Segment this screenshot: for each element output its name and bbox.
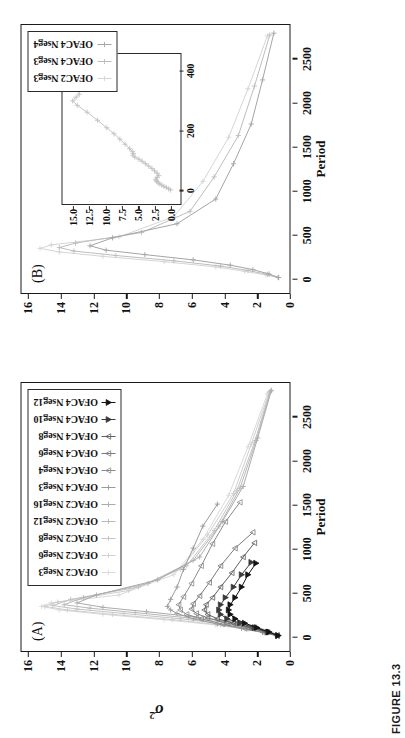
legend-item[interactable]: OFAC2 Nseg3 xyxy=(38,564,117,581)
panel-a-plot-frame: (A) OFAC2 Nseg3OFAC2 Nseg6OFAC2 Nseg8OFA… xyxy=(20,382,290,652)
y-tick-label: 8 xyxy=(152,660,167,666)
y-tick-mark xyxy=(93,652,94,657)
inset-y-tick-label: 15.0 xyxy=(68,209,78,226)
y-tick-mark xyxy=(126,652,127,657)
y-tick-mark xyxy=(257,652,258,657)
panel-a-x-axis: 05001000150020002500 xyxy=(292,376,314,696)
x-tick-mark xyxy=(292,549,297,550)
y-tick-label: 4 xyxy=(217,302,232,308)
legend-swatch-triangle-filled xyxy=(100,412,116,427)
figure-rotated-canvas: (A) OFAC2 Nseg3OFAC2 Nseg6OFAC2 Nseg8OFA… xyxy=(0,0,405,738)
inset-y-tick-mark xyxy=(121,206,122,210)
legend-swatch-triangle xyxy=(100,463,116,478)
y-tick-label: 10 xyxy=(119,660,134,672)
inset-y-tick-label: 7.5 xyxy=(117,209,127,221)
inset-x-tick-mark xyxy=(179,130,183,131)
legend-item-label: OFAC2 Nseg12 xyxy=(33,516,97,527)
y-tick-label: 16 xyxy=(21,660,36,672)
y-tick-label: 6 xyxy=(184,660,199,666)
panel-b-x-axis-title: Period xyxy=(312,24,328,294)
x-tick-mark xyxy=(292,58,297,59)
panel-a-chart: (A) OFAC2 Nseg3OFAC2 Nseg6OFAC2 Nseg8OFA… xyxy=(16,376,356,696)
inset-y-tick-mark xyxy=(154,206,155,210)
legend-swatch-plus xyxy=(100,497,116,512)
legend-item[interactable]: OFAC2 Nseg6 xyxy=(38,547,117,564)
inset-y-tick-mark xyxy=(138,206,139,210)
y-tick-mark xyxy=(158,294,159,299)
legend-item-label: OFAC4 Nseg3 xyxy=(38,482,98,493)
legend-swatch-plus xyxy=(100,480,116,495)
legend-item[interactable]: OFAC4 Nseg8 xyxy=(38,428,117,445)
x-tick-mark xyxy=(292,460,297,461)
y-tick-mark xyxy=(126,294,127,299)
legend-item[interactable]: OFAC4 Nseg4 xyxy=(38,462,117,479)
panel-b-x-axis: 05001000150020002500 xyxy=(292,18,314,338)
panel-a-x-axis-title: Period xyxy=(312,382,328,652)
legend-item[interactable]: OFAC4 Nseg4 xyxy=(33,36,112,53)
x-tick-mark xyxy=(292,416,297,417)
y-tick-label: 2 xyxy=(250,660,265,666)
legend-swatch-plus xyxy=(96,37,112,52)
panel-b-legend: OFAC2 Nseg3OFAC4 Nseg3OFAC4 Nseg4 xyxy=(27,31,117,92)
x-tick-mark xyxy=(292,504,297,505)
x-tick-mark xyxy=(292,637,297,638)
inset-y-tick-label: 5.0 xyxy=(133,209,143,221)
legend-item-label: OFAC4 Nseg12 xyxy=(33,397,97,408)
legend-item-label: OFAC2 Nseg6 xyxy=(38,550,98,561)
legend-item-label: OFAC2 Nseg16 xyxy=(33,499,97,510)
legend-item[interactable]: OFAC2 Nseg3 xyxy=(33,70,112,87)
y-tick-mark xyxy=(191,652,192,657)
legend-swatch-triangle xyxy=(100,429,116,444)
y-tick-mark xyxy=(289,652,290,657)
legend-swatch-triangle-filled xyxy=(100,395,116,410)
x-tick-mark xyxy=(292,146,297,147)
legend-item[interactable]: OFAC4 Nseg12 xyxy=(33,394,116,411)
legend-item-label: OFAC2 Nseg3 xyxy=(38,567,98,578)
panel-b-chart: (B) OFAC2 Nseg3OFAC4 Nseg3OFAC4 Nseg4 0.… xyxy=(16,18,356,338)
panel-b-plot-frame: (B) OFAC2 Nseg3OFAC4 Nseg3OFAC4 Nseg4 0.… xyxy=(20,24,290,294)
legend-item[interactable]: OFAC2 Nseg8 xyxy=(38,530,117,547)
y-tick-label: 14 xyxy=(53,302,68,314)
y-tick-label: 10 xyxy=(119,302,134,314)
legend-item-label: OFAC4 Nseg4 xyxy=(33,39,93,50)
panel-b-inset-y-axis: 0.02.55.07.510.012.515.0 xyxy=(61,209,179,239)
y-tick-label: 6 xyxy=(184,302,199,308)
x-tick-mark xyxy=(292,593,297,594)
y-tick-mark xyxy=(289,294,290,299)
y-tick-mark xyxy=(27,652,28,657)
y-tick-label: 4 xyxy=(217,660,232,666)
x-tick-mark xyxy=(292,102,297,103)
legend-item[interactable]: OFAC4 Nseg3 xyxy=(33,53,112,70)
legend-swatch-plus xyxy=(100,548,116,563)
legend-item-label: OFAC4 Nseg6 xyxy=(38,448,98,459)
legend-item-label: OFAC4 Nseg10 xyxy=(33,414,97,425)
panel-b-letter: (B) xyxy=(29,264,45,283)
y-tick-mark xyxy=(93,294,94,299)
inset-y-tick-mark xyxy=(89,206,90,210)
panel-b-inset-x-axis: 0200400 xyxy=(179,55,201,205)
legend-item[interactable]: OFAC2 Nseg12 xyxy=(33,513,116,530)
inset-y-tick-label: 12.5 xyxy=(84,209,94,226)
x-tick-mark xyxy=(292,191,297,192)
legend-item[interactable]: OFAC4 Nseg10 xyxy=(33,411,116,428)
inset-y-tick-mark xyxy=(72,206,73,210)
panel-a-y-axis: 0246810121416 xyxy=(16,660,300,696)
inset-y-tick-mark xyxy=(170,206,171,210)
y-tick-mark xyxy=(224,652,225,657)
inset-y-tick-label: 10.0 xyxy=(101,209,111,226)
inset-y-tick-label: 0.0 xyxy=(166,209,176,221)
legend-item[interactable]: OFAC2 Nseg16 xyxy=(33,496,116,513)
legend-item[interactable]: OFAC4 Nseg3 xyxy=(38,479,117,496)
legend-item[interactable]: OFAC4 Nseg6 xyxy=(38,445,117,462)
legend-swatch-plus xyxy=(96,54,112,69)
panel-b-y-axis: 0246810121416 xyxy=(16,302,300,338)
legend-swatch-plus xyxy=(100,531,116,546)
inset-y-tick-mark xyxy=(105,206,106,210)
legend-swatch-triangle xyxy=(100,446,116,461)
legend-item-label: OFAC4 Nseg3 xyxy=(33,56,93,67)
legend-swatch-plus xyxy=(100,565,116,580)
figure-caption: FIGURE 13.3 xyxy=(389,664,401,734)
y-tick-label: 12 xyxy=(86,302,101,314)
y-tick-mark xyxy=(257,294,258,299)
legend-swatch-plus xyxy=(96,71,112,86)
